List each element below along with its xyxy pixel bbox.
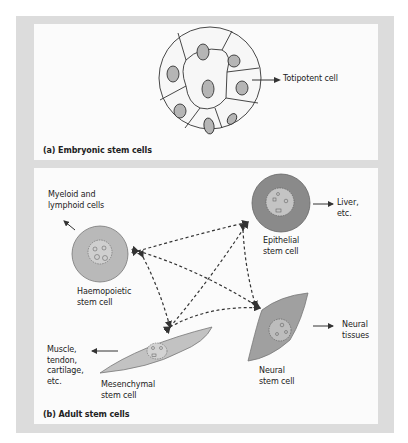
neural-stem-cell-icon <box>248 293 308 361</box>
differentiation-links <box>138 222 260 327</box>
haemopoietic-product-label: Myeloid and lymphoid cells <box>48 190 104 211</box>
epithelial-stem-cell-icon <box>252 174 310 232</box>
neural-cell-label: Neural stem cell <box>259 366 294 387</box>
epithelial-product-label: Liver, etc. <box>337 198 359 219</box>
arrow-to-myeloid <box>64 221 75 230</box>
mesenchymal-product-label: Muscle, tendon, cartilage, etc. <box>47 345 84 387</box>
mesenchymal-cell-label: Mesenchymal stem cell <box>101 380 155 401</box>
epithelial-cell-label: Epithelial stem cell <box>263 236 299 257</box>
neural-product-label: Neural tissues <box>342 320 369 341</box>
mesenchymal-stem-cell-icon <box>100 327 212 373</box>
panel-b-caption: (b) Adult stem cells <box>43 410 129 419</box>
haemopoietic-cell-label: Haemopoietic stem cell <box>77 287 131 308</box>
haemopoietic-stem-cell-icon <box>72 226 128 282</box>
